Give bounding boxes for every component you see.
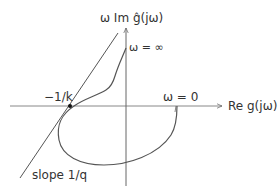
popov-diagram	[0, 0, 278, 195]
critical-point-marker	[68, 104, 72, 108]
omega-infinity-label: ω = ∞	[129, 42, 164, 53]
popov-line-label: slope 1/q	[32, 169, 87, 181]
omega-zero-tick	[175, 106, 176, 112]
omega-zero-label: ω = 0	[163, 91, 198, 103]
x-axis-label: Re g(jω)	[228, 100, 277, 112]
critical-point-label: −1/k	[44, 91, 73, 103]
y-axis-label: ω Im ĝ(jω)	[100, 12, 163, 24]
